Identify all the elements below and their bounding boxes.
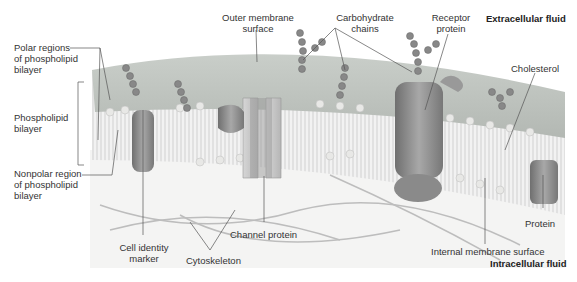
label-cholesterol: Cholesterol (511, 63, 559, 74)
label-nonpolar-region: Nonpolar region of phospholipid bilayer (14, 168, 82, 201)
label-outer-membrane-surface: Outer membrane surface (220, 12, 296, 34)
label-cell-identity-marker: Cell identity marker (114, 242, 174, 264)
label-protein: Protein (525, 218, 555, 229)
protein-shape (530, 160, 558, 204)
label-carbohydrate-chains: Carbohydrate chains (330, 12, 400, 34)
receptor-protein-shape (395, 82, 443, 178)
label-cytoskeleton: Cytoskeleton (186, 255, 241, 266)
label-polar-regions: Polar regions of phospholipid bilayer (14, 42, 78, 75)
channel-protein-shape (250, 98, 272, 178)
label-extracellular-fluid: Extracellular fluid (486, 13, 566, 24)
label-channel-protein: Channel protein (230, 229, 297, 240)
label-intracellular-fluid: Intracellular fluid (490, 258, 567, 269)
label-receptor-protein: Receptor protein (428, 12, 474, 34)
label-phospholipid-bilayer: Phospholipid bilayer (14, 112, 68, 134)
label-internal-membrane-surface: Internal membrane surface (431, 246, 545, 257)
